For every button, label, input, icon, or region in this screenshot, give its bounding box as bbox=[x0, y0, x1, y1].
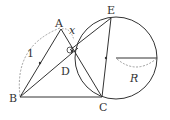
label-side-1: 1 bbox=[27, 47, 34, 60]
label-B: B bbox=[9, 92, 17, 105]
segment-ED bbox=[70, 18, 111, 50]
label-x: x bbox=[69, 24, 76, 37]
label-R: R bbox=[129, 72, 138, 85]
label-A: A bbox=[54, 17, 64, 30]
tick-mark-AB bbox=[39, 62, 41, 64]
geometry-diagram: A B C D E 1 x R bbox=[0, 0, 170, 120]
segment-AC bbox=[61, 29, 102, 97]
radius-arc bbox=[117, 59, 156, 67]
label-C: C bbox=[99, 101, 107, 114]
tick-mark-EC bbox=[105, 57, 107, 59]
label-D: D bbox=[61, 65, 70, 78]
label-E: E bbox=[107, 4, 115, 17]
point-D bbox=[71, 50, 73, 52]
